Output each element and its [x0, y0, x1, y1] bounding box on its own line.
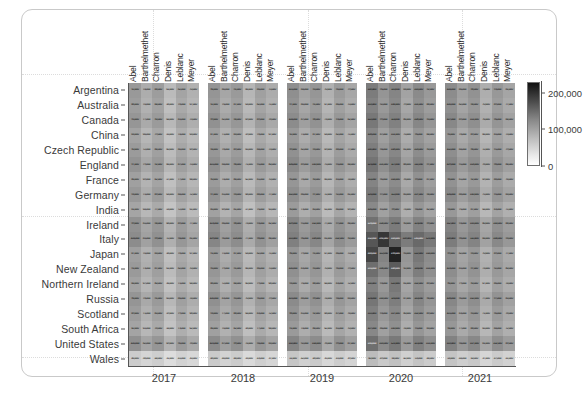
heatmap-cell[interactable]: 79,000 [401, 98, 413, 113]
heatmap-cell[interactable]: 63,000 [243, 98, 255, 113]
heatmap-cell[interactable]: 111,000 [366, 172, 378, 187]
heatmap-cell[interactable]: 79,000 [255, 277, 267, 292]
heatmap-cell[interactable]: 95,000 [468, 306, 480, 321]
heatmap-cell[interactable]: 93,000 [492, 83, 504, 98]
heatmap-cell[interactable]: 88,000 [401, 157, 413, 172]
heatmap-cell[interactable]: 79,000 [141, 157, 153, 172]
heatmap-cell[interactable]: 73,000 [480, 262, 492, 277]
heatmap-cell[interactable]: 92,000 [299, 336, 311, 351]
heatmap-cell[interactable]: 99,000 [310, 292, 322, 307]
heatmap-cell[interactable]: 93,000 [129, 187, 141, 202]
heatmap-cell[interactable]: 99,000 [231, 336, 243, 351]
heatmap-cell[interactable]: 79,000 [220, 262, 232, 277]
heatmap-cell[interactable]: 100,000 [208, 292, 220, 307]
heatmap-cell[interactable]: 78,000 [152, 321, 164, 336]
heatmap-cell[interactable]: 91,000 [299, 217, 311, 232]
heatmap-cell[interactable]: 93,000 [287, 277, 299, 292]
heatmap-cell[interactable]: 96,000 [231, 157, 243, 172]
heatmap-cell[interactable]: 91,000 [208, 247, 220, 262]
heatmap-cell[interactable]: 80,000 [480, 217, 492, 232]
heatmap-cell[interactable]: 74,000 [322, 292, 334, 307]
heatmap-cell[interactable]: 73,000 [299, 202, 311, 217]
heatmap-cell[interactable]: 104,000 [424, 247, 436, 262]
heatmap-cell[interactable]: 93,000 [378, 277, 390, 292]
heatmap-cell[interactable]: 58,000 [164, 247, 176, 262]
heatmap-cell[interactable]: 87,000 [401, 292, 413, 307]
heatmap-cell[interactable]: 92,000 [468, 172, 480, 187]
heatmap-cell[interactable]: 82,000 [220, 113, 232, 128]
heatmap-cell[interactable]: 76,000 [480, 113, 492, 128]
heatmap-cell[interactable]: 84,000 [176, 187, 188, 202]
heatmap-cell[interactable]: 108,000 [366, 128, 378, 143]
heatmap-cell[interactable]: 114,000 [366, 277, 378, 292]
heatmap-cell[interactable]: 66,000 [187, 172, 199, 187]
heatmap-cell[interactable]: 90,000 [334, 262, 346, 277]
heatmap-cell[interactable]: 85,000 [401, 187, 413, 202]
heatmap-cell[interactable]: 88,000 [424, 98, 436, 113]
heatmap-cell[interactable]: 74,000 [243, 336, 255, 351]
heatmap-cell[interactable]: 113,000 [413, 217, 425, 232]
heatmap-cell[interactable]: 77,000 [457, 321, 469, 336]
heatmap-cell[interactable]: 104,000 [310, 336, 322, 351]
heatmap-cell[interactable]: 121,000 [424, 232, 436, 247]
heatmap-cell[interactable]: 68,000 [322, 306, 334, 321]
heatmap-cell[interactable]: 83,000 [492, 202, 504, 217]
heatmap-cell[interactable]: 79,000 [345, 262, 357, 277]
heatmap-cell[interactable]: 101,000 [445, 306, 457, 321]
heatmap-cell[interactable]: 106,000 [287, 157, 299, 172]
heatmap-cell[interactable]: 50,000 [468, 351, 480, 366]
heatmap-cell[interactable]: 82,000 [129, 321, 141, 336]
heatmap-cell[interactable]: 61,000 [187, 202, 199, 217]
heatmap-cell[interactable]: 89,000 [176, 217, 188, 232]
heatmap-cell[interactable]: 110,000 [413, 292, 425, 307]
heatmap-cell[interactable]: 94,000 [152, 217, 164, 232]
heatmap-cell[interactable]: 61,000 [164, 83, 176, 98]
heatmap-cell[interactable]: 88,000 [492, 172, 504, 187]
heatmap-cell[interactable]: 152,000 [366, 232, 378, 247]
heatmap-cell[interactable]: 83,000 [255, 306, 267, 321]
heatmap-cell[interactable]: 97,000 [287, 98, 299, 113]
heatmap-cell[interactable]: 77,000 [503, 98, 515, 113]
heatmap-cell[interactable]: 94,000 [457, 336, 469, 351]
heatmap-cell[interactable]: 70,000 [480, 98, 492, 113]
heatmap-cell[interactable]: 80,000 [152, 277, 164, 292]
heatmap-cell[interactable]: 80,000 [299, 98, 311, 113]
heatmap-cell[interactable]: 95,000 [287, 172, 299, 187]
heatmap-cell[interactable]: 91,000 [310, 98, 322, 113]
heatmap-cell[interactable]: 78,000 [176, 98, 188, 113]
heatmap-cell[interactable]: 72,000 [176, 202, 188, 217]
heatmap-cell[interactable]: 96,000 [378, 83, 390, 98]
heatmap-cell[interactable]: 90,000 [255, 292, 267, 307]
heatmap-cell[interactable]: 107,000 [366, 321, 378, 336]
heatmap-cell[interactable]: 79,000 [345, 83, 357, 98]
heatmap-cell[interactable]: 79,000 [503, 143, 515, 158]
heatmap-cell[interactable]: 75,000 [176, 277, 188, 292]
heatmap-cell[interactable]: 101,000 [424, 336, 436, 351]
heatmap-cell[interactable]: 101,000 [468, 113, 480, 128]
heatmap-cell[interactable]: 78,000 [299, 172, 311, 187]
heatmap-cell[interactable]: 99,000 [424, 217, 436, 232]
heatmap-cell[interactable]: 115,000 [287, 232, 299, 247]
heatmap-cell[interactable]: 101,000 [287, 83, 299, 98]
heatmap-cell[interactable]: 82,000 [345, 113, 357, 128]
heatmap-cell[interactable]: 106,000 [445, 187, 457, 202]
heatmap-cell[interactable]: 82,000 [231, 321, 243, 336]
heatmap-cell[interactable]: 97,000 [334, 217, 346, 232]
heatmap-cell[interactable]: 72,000 [322, 187, 334, 202]
heatmap-cell[interactable]: 75,000 [266, 262, 278, 277]
heatmap-cell[interactable]: 73,000 [176, 321, 188, 336]
heatmap-cell[interactable]: 96,000 [129, 292, 141, 307]
heatmap-cell[interactable]: 57,000 [243, 202, 255, 217]
heatmap-cell[interactable]: 90,000 [220, 232, 232, 247]
heatmap-cell[interactable]: 88,000 [503, 217, 515, 232]
heatmap-cell[interactable]: 87,000 [345, 336, 357, 351]
heatmap-cell[interactable]: 83,000 [299, 262, 311, 277]
heatmap-cell[interactable]: 82,000 [334, 128, 346, 143]
heatmap-cell[interactable]: 86,000 [255, 262, 267, 277]
heatmap-cell[interactable]: 37,000 [266, 351, 278, 366]
heatmap-cell[interactable]: 63,000 [322, 128, 334, 143]
heatmap-cell[interactable]: 69,000 [141, 172, 153, 187]
heatmap-cell[interactable]: 77,000 [322, 217, 334, 232]
heatmap-cell[interactable]: 100,000 [445, 98, 457, 113]
heatmap-cell[interactable]: 83,000 [457, 306, 469, 321]
